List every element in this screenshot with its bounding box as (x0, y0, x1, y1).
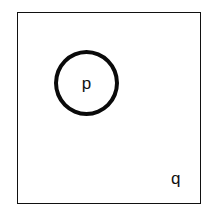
diagram-canvas: p q (0, 0, 211, 221)
set-label-p: p (54, 50, 119, 116)
universe-label-q: q (171, 170, 180, 187)
